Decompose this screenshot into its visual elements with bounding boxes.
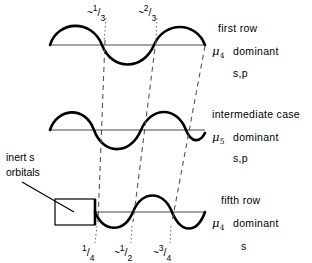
row-label-fifth-row-dominant: μ4 dominant: [212, 216, 279, 232]
inert-s-orbitals-box: [55, 199, 95, 225]
tick-leader-bottom-second: [131, 226, 132, 243]
dominant-text: dominant: [228, 217, 279, 229]
row-label-fifth-row-orbitals: s: [241, 240, 247, 252]
row-label-first-row-orbitals: s,p: [233, 67, 248, 79]
mu-symbol: μ4: [212, 44, 225, 58]
row-label-intermediate-dominant: μ5 dominant: [212, 130, 279, 146]
fraction-denominator: 3: [152, 13, 157, 23]
wave-intermediate-row: [50, 112, 205, 149]
annotation-line-1: inert s: [6, 150, 40, 165]
tick-leader-bottom-first: [95, 226, 97, 243]
row-label-first-row-dominant: μ4 dominant: [212, 44, 279, 60]
node-label-top-1: ~1/3: [87, 4, 105, 21]
wavefunction-diagram: ~1/3 ~2/3 1/4 ~1/2 ~3/4 first row μ4 dom…: [0, 0, 312, 263]
mu-glyph: μ: [212, 130, 220, 144]
annotation-leader-line: [22, 182, 74, 212]
node-label-bottom-2: ~1/2: [114, 244, 132, 261]
node-label-bottom-3: ~3/4: [153, 244, 171, 261]
fraction-denominator: 4: [90, 253, 95, 263]
row-label-fifth-row-title: fifth row: [221, 194, 260, 206]
row-label-intermediate-orbitals: s,p: [233, 152, 248, 164]
mu-glyph: μ: [212, 44, 220, 58]
connector-line-left: [98, 40, 105, 222]
fraction-numerator: 1: [82, 243, 87, 253]
annotation-line-2: orbitals: [6, 165, 40, 180]
mu-subscript: 5: [220, 137, 225, 146]
fraction-denominator: 3: [101, 13, 106, 23]
dominant-text: dominant: [228, 45, 279, 57]
tick-leader-bottom-third: [170, 226, 171, 243]
tilde-glyph: ~: [114, 247, 120, 258]
row-label-intermediate-title: intermediate case: [212, 108, 300, 120]
tilde-glyph: ~: [87, 7, 93, 18]
fraction-numerator: 3: [159, 243, 164, 253]
node-label-bottom-1: 1/4: [82, 244, 94, 261]
mu-symbol: μ5: [212, 130, 225, 144]
mu-symbol: μ4: [212, 216, 225, 230]
fraction-numerator: 1: [120, 243, 125, 253]
fraction-numerator: 2: [144, 3, 149, 13]
fraction-numerator: 1: [93, 3, 98, 13]
mu-subscript: 4: [220, 223, 225, 232]
inert-s-orbitals-annotation: inert s orbitals: [6, 150, 40, 180]
node-label-top-2: ~2/3: [138, 4, 156, 21]
row-label-first-row-title: first row: [218, 22, 257, 34]
fraction-denominator: 2: [128, 253, 133, 263]
mu-glyph: μ: [212, 216, 220, 230]
tilde-glyph: ~: [138, 7, 144, 18]
dominant-text: dominant: [228, 131, 279, 143]
fraction-denominator: 4: [167, 253, 172, 263]
mu-subscript: 4: [220, 51, 225, 60]
tilde-glyph: ~: [153, 247, 159, 258]
